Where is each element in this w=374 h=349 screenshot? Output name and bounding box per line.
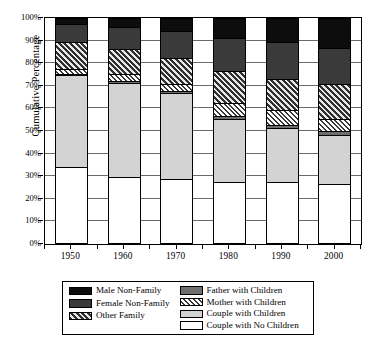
y-axis-tick-mark (38, 243, 43, 244)
x-axis-tick-mark (176, 244, 177, 249)
bar-segment (160, 18, 193, 32)
bar-segment (160, 94, 193, 180)
bar-segment (213, 183, 246, 244)
bar-segment (213, 120, 246, 183)
segment-divider (318, 48, 351, 49)
x-axis-tick-mark (360, 244, 361, 249)
y-axis-tick-label: 10% (1, 215, 41, 225)
y-axis-tick-mark (38, 62, 43, 63)
bar-segment (266, 111, 299, 126)
bar-segment (55, 168, 88, 244)
legend-label: Mother with Children (207, 298, 286, 307)
x-axis-tick-mark (255, 244, 256, 249)
bar-segment (55, 25, 88, 43)
segment-divider (160, 91, 193, 92)
segment-divider (55, 24, 88, 25)
legend-swatch-icon (69, 299, 92, 308)
bar-segment (318, 136, 351, 186)
x-axis-tick-mark (334, 244, 335, 249)
y-axis-tick-label: 80% (1, 57, 41, 67)
x-axis-tick-mark (281, 244, 282, 249)
legend-label: Female Non-Family (96, 299, 170, 308)
bar-segment (108, 50, 141, 75)
legend-item[interactable]: Female Non-Family (69, 298, 170, 310)
bar-segment (213, 18, 246, 39)
legend-label: Father with Children (207, 286, 283, 295)
segment-divider (213, 119, 246, 120)
bar-segment (160, 32, 193, 59)
legend-swatch-icon (69, 287, 92, 296)
bar-segment (266, 43, 299, 80)
bar-segment (318, 185, 351, 244)
bar-1970 (160, 18, 193, 244)
x-axis-tick-mark (70, 244, 71, 249)
x-axis-tick-mark (44, 244, 45, 249)
legend-column-right: Father with ChildrenMother with Children… (180, 285, 299, 331)
bar-segment (318, 18, 351, 49)
segment-divider (55, 75, 88, 76)
segment-divider (213, 116, 246, 117)
legend-item[interactable]: Other Family (69, 310, 170, 322)
legend-column-left: Male Non-FamilyFemale Non-FamilyOther Fa… (69, 285, 170, 331)
segment-divider (266, 42, 299, 43)
legend-item[interactable]: Mother with Children (180, 297, 299, 308)
segment-divider (266, 182, 299, 183)
segment-divider (160, 58, 193, 59)
gridline (45, 130, 361, 131)
segment-divider (318, 119, 351, 120)
segment-divider (266, 125, 299, 126)
segment-divider (318, 135, 351, 136)
bar-segment (160, 180, 193, 244)
y-axis-tick-mark (38, 220, 43, 221)
y-axis-tick-mark (38, 130, 43, 131)
y-axis-tick-label: 30% (1, 170, 41, 180)
bar-segment (108, 178, 141, 244)
gridline (45, 175, 361, 176)
bar-1990 (266, 18, 299, 244)
segment-divider (160, 93, 193, 94)
x-axis-tick-label: 1960 (98, 251, 148, 261)
legend-item[interactable]: Couple with No Children (180, 320, 299, 331)
bar-1960 (108, 18, 141, 244)
bar-segment (266, 129, 299, 183)
y-axis-tick-label: 60% (1, 102, 41, 112)
segment-divider (108, 74, 141, 75)
bar-segment (213, 39, 246, 72)
x-axis-tick-mark (307, 244, 308, 249)
y-axis-tick-label: 90% (1, 35, 41, 45)
segment-divider (108, 49, 141, 50)
legend-swatch-icon (180, 310, 203, 319)
legend-swatch-icon (180, 298, 203, 307)
legend-item[interactable]: Couple with Children (180, 309, 299, 320)
bar-segment (318, 49, 351, 85)
bar-segment (213, 104, 246, 118)
x-axis-tick-label: 1990 (256, 251, 306, 261)
segment-divider (108, 27, 141, 28)
y-axis-tick-mark (38, 175, 43, 176)
segment-divider (213, 71, 246, 72)
segment-divider (266, 110, 299, 111)
legend-item[interactable]: Father with Children (180, 285, 299, 296)
gridline (45, 153, 361, 154)
bar-1980 (213, 18, 246, 244)
segment-divider (266, 79, 299, 80)
segment-divider (160, 31, 193, 32)
x-axis-tick-mark (202, 244, 203, 249)
x-axis-tick-label: 1950 (45, 251, 95, 261)
segment-divider (108, 83, 141, 84)
x-axis-tick-label: 1980 (203, 251, 253, 261)
segment-divider (55, 167, 88, 168)
bar-segment (160, 59, 193, 85)
legend-swatch-icon (180, 286, 203, 295)
gridline (45, 198, 361, 199)
segment-divider (266, 128, 299, 129)
x-axis-tick-label: 2000 (309, 251, 359, 261)
legend-label: Male Non-Family (96, 286, 161, 295)
legend-label: Couple with No Children (207, 321, 299, 330)
y-axis-ticks: 0%10%20%30%40%50%60%70%80%90%100% (0, 17, 41, 243)
legend-item[interactable]: Male Non-Family (69, 285, 170, 297)
x-axis-tick-label: 1970 (151, 251, 201, 261)
y-axis-tick-label: 0% (1, 238, 41, 248)
segment-divider (213, 182, 246, 183)
segment-divider (318, 84, 351, 85)
